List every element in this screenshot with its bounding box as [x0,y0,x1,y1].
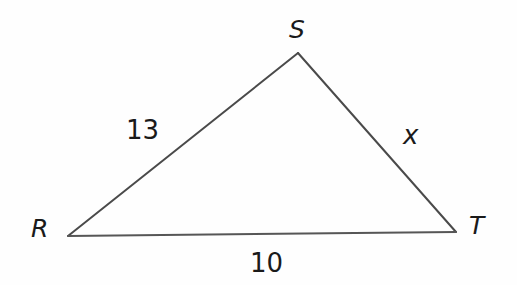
side-length-label-st: x [403,122,418,148]
triangle-drawing [0,0,517,285]
triangle-side-st [298,53,456,232]
triangle-side-rt [68,232,456,236]
vertex-label-t: T [469,213,484,238]
triangle-figure: S R T 13 x 10 [0,0,517,285]
triangle-side-rs [68,53,298,236]
side-length-label-rt: 10 [250,250,283,276]
side-length-label-rs: 13 [126,117,159,143]
vertex-label-r: R [31,216,48,241]
vertex-label-s: S [289,17,305,42]
